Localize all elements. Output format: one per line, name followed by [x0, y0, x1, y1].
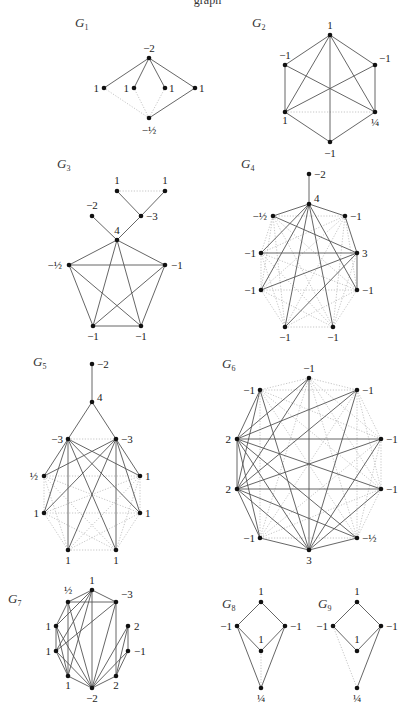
vertex-dot [42, 474, 47, 479]
vertex-weight-label: −1 [386, 620, 398, 632]
vertex-weight-label: 1 [65, 554, 71, 566]
solid-edge [261, 602, 285, 626]
vertex-weight-label: −1 [220, 620, 232, 632]
graph-figure: G1−21111−½G21−1−11¼−1G311−3−24−½−1−1−1G4… [0, 0, 415, 723]
vertex-dot [126, 649, 131, 654]
solid-edge [141, 265, 165, 326]
vertex-dot [138, 474, 143, 479]
vertex-weight-label: −1 [134, 645, 146, 657]
vertex-dot [307, 548, 312, 553]
vertex-dot [90, 214, 95, 219]
solid-edge [237, 489, 260, 538]
vertex-weight-label: 1 [114, 174, 120, 186]
vertex-weight-label: ¼ [257, 692, 265, 704]
vertex-weight-label: ¼ [353, 692, 361, 704]
graph-title: G3 [57, 156, 70, 173]
vertex-dot [283, 624, 288, 629]
vertex-weight-label: 1 [199, 82, 205, 94]
vertex-dot [355, 600, 360, 605]
dotted-edge [261, 290, 333, 327]
vertex-dot [114, 437, 119, 442]
graph-g3: G311−3−24−½−1−1−1 [48, 156, 183, 342]
vertex-weight-label: 1 [169, 82, 175, 94]
vertex-weight-label: −1 [243, 532, 255, 544]
vertex-dot [355, 388, 360, 393]
solid-edge [261, 626, 285, 688]
solid-edge [69, 265, 141, 326]
vertex-dot [258, 388, 263, 393]
vertex-dot [114, 600, 119, 605]
vertex-weight-label: 1 [162, 174, 168, 186]
graph-g8: G81−1−11¼ [220, 585, 301, 704]
vertex-weight-label: 1 [145, 470, 151, 482]
vertex-weight-label: 1 [65, 679, 71, 691]
vertex-dot [42, 511, 47, 516]
graph-title: G9 [318, 596, 331, 613]
vertex-weight-label: −1 [244, 284, 256, 296]
vertex-dot [259, 686, 264, 691]
graph-title: G2 [252, 15, 265, 32]
vertex-dot [114, 548, 119, 553]
solid-edge [117, 240, 165, 265]
vertex-weight-label: ¼ [371, 116, 379, 128]
vertex-dot [328, 140, 333, 145]
vertex-dot [283, 325, 288, 330]
solid-edge [357, 626, 381, 651]
vertex-weight-label: 2 [226, 433, 232, 445]
dotted-edge [285, 290, 357, 327]
vertex-weight-label: −1 [350, 210, 362, 222]
vertex-dot [147, 116, 152, 121]
solid-edge [273, 216, 357, 253]
vertex-weight-label: −2 [86, 692, 98, 704]
vertex-dot [54, 624, 59, 629]
solid-edge [93, 265, 165, 326]
vertex-dot [271, 214, 276, 219]
vertex-dot [102, 86, 107, 91]
vertex-weight-label: −1 [327, 331, 339, 343]
vertex-weight-label: −3 [51, 433, 63, 445]
graph-title: G6 [222, 356, 235, 373]
vertex-dot [355, 536, 360, 541]
vertex-dot [67, 263, 72, 268]
vertex-dot [163, 189, 168, 194]
solid-edge [237, 439, 260, 538]
vertex-weight-label: 1 [94, 82, 100, 94]
vertex-weight-label: 1 [258, 633, 264, 645]
vertex-weight-label: −1 [279, 49, 291, 61]
solid-edge [69, 265, 93, 326]
vertex-dot [138, 511, 143, 516]
solid-edge [117, 191, 141, 216]
vertex-weight-label: −2 [97, 358, 109, 370]
vertex-weight-label: −½ [362, 532, 376, 544]
vertex-dot [90, 362, 95, 367]
vertex-dot [115, 189, 120, 194]
dotted-edge [44, 513, 116, 550]
vertex-weight-label: −1 [244, 247, 256, 259]
solid-edge [261, 626, 285, 651]
vertex-dot [259, 600, 264, 605]
solid-edge [92, 402, 116, 439]
solid-edge [69, 240, 117, 265]
solid-edge [237, 390, 260, 439]
vertex-dot [259, 649, 264, 654]
graph-g1: G1−21111−½ [75, 15, 205, 136]
vertex-weight-label: 1 [113, 554, 119, 566]
vertex-weight-label: −1 [290, 620, 302, 632]
vertex-weight-label: −2 [86, 199, 98, 211]
vertex-weight-label: −½ [48, 259, 62, 271]
vertex-dot [355, 288, 360, 293]
vertex-dot [379, 487, 384, 492]
vertex-weight-label: −2 [314, 168, 326, 180]
vertex-weight-label: −1 [279, 331, 291, 343]
solid-edge [285, 35, 330, 65]
vertex-dot [331, 325, 336, 330]
solid-edge [237, 390, 260, 489]
solid-edge [117, 240, 141, 326]
graph-g9: G91−1−11¼ [316, 585, 397, 704]
vertex-weight-label: −1 [379, 52, 391, 64]
solid-edge [330, 35, 375, 65]
solid-edge [260, 390, 309, 550]
vertex-weight-label: 1 [34, 507, 40, 519]
vertex-weight-label: −3 [121, 588, 133, 600]
vertex-weight-label: 1 [124, 82, 130, 94]
